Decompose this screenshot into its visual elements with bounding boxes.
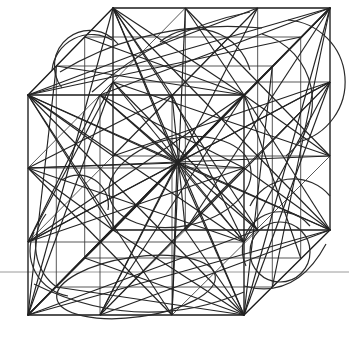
figure-canvas — [0, 0, 349, 340]
wireframe-cube-figure — [0, 0, 349, 340]
